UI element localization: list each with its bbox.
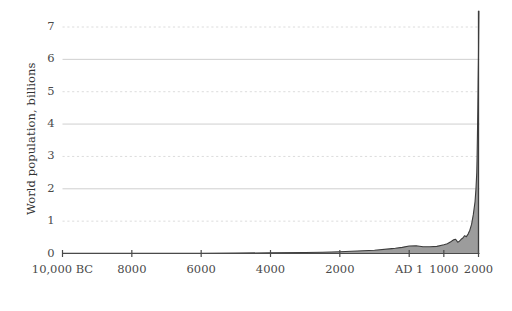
population-area-fill (63, 11, 479, 254)
gridlines (63, 27, 480, 221)
y-tick-label-4: 4 (35, 116, 55, 130)
population-chart: World population, billions 01234567 10,0… (0, 0, 512, 311)
y-tick-label-2: 2 (35, 181, 55, 195)
y-tick-label-1: 1 (35, 213, 55, 227)
y-tick-label-3: 3 (35, 148, 55, 162)
y-tick-label-0: 0 (35, 246, 55, 260)
y-tick-label-5: 5 (35, 84, 55, 98)
y-tick-label-6: 6 (35, 51, 55, 65)
x-tick-label-7: 2000 (434, 262, 512, 276)
population-line (63, 11, 479, 254)
y-tick-label-7: 7 (35, 19, 55, 33)
